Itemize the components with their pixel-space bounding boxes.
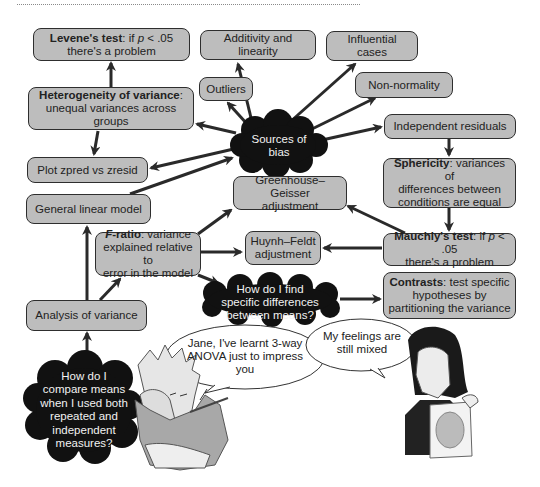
compare-means-text: How do I compare means when I used both … (36, 368, 132, 452)
specific-differences-text: How do I find specific differences betwe… (205, 282, 335, 322)
speech-right-line1: My feelings are (323, 330, 401, 342)
specific-line1: How do I find (236, 283, 303, 295)
arrow-bias-to-plot-zpred (151, 148, 238, 168)
speech-left-line1: Jane, I've learnt 3-way (188, 337, 303, 349)
plot-zpred-label: Plot zpred vs zresid (37, 164, 137, 177)
f-ratio-line3: error in the model (103, 267, 193, 279)
f-ratio-box: F-ratio: variance explained relative to … (95, 232, 201, 276)
greenhouse-geisser-box: Greenhouse–Geisser adjustment (233, 176, 347, 210)
compare-line5: independent (52, 424, 115, 436)
sources-line1: Sources of (252, 133, 307, 145)
independent-residuals-label: Independent residuals (393, 120, 506, 133)
arrow-bias-to-heterogeneity (197, 124, 236, 133)
sources-line2: bias (268, 146, 289, 158)
heterogeneity-box: Heterogeneity of variance: unequal varia… (28, 87, 194, 130)
speech-left-line3: you (236, 363, 255, 375)
analysis-of-variance-box: Analysis of variance (26, 300, 147, 331)
levene-title: Levene's test (50, 32, 122, 44)
f-ratio-line2: explained relative to (103, 241, 193, 266)
arrow-anova-to-f-ratio (100, 279, 120, 300)
contrasts-line3: partitioning the variance (388, 302, 510, 314)
sources-of-bias-text: Sources of bias (236, 128, 322, 164)
specific-line2: specific differences (221, 296, 319, 308)
heterogeneity-colon: : (180, 89, 183, 101)
compare-line6: measures? (56, 437, 113, 449)
heterogeneity-line2: unequal variances across groups (46, 102, 176, 127)
speech-right-line2: still mixed (337, 343, 387, 355)
outliers-label: Outliers (206, 83, 246, 96)
sphericity-line2: differences between (398, 183, 501, 195)
contrasts-box: Contrasts: test specific hypotheses by p… (383, 272, 516, 319)
greenhouse-line1: Greenhouse–Geisser (255, 174, 325, 199)
compare-line1: How do I (61, 370, 106, 382)
outliers-box: Outliers (199, 77, 253, 101)
specific-line3: between means? (226, 309, 314, 321)
mauchly-test-box: Mauchly's test: if p < .05 there's a pro… (383, 233, 516, 266)
contrasts-line2: hypotheses by (412, 289, 486, 301)
influential-cases-box: Influential cases (326, 31, 418, 61)
sphericity-line3: conditions are equal (398, 196, 501, 208)
female-character-illustration (405, 327, 478, 458)
independent-residuals-box: Independent residuals (384, 114, 516, 139)
arrow-f-ratio-to-greenhouse (198, 210, 231, 234)
additivity-label: Additivity and linearity (205, 32, 311, 58)
arrow-heterogeneity-to-plot-zpred (94, 131, 98, 154)
contrasts-title: Contrasts (389, 276, 443, 288)
speech-left-text: Jane, I've learnt 3-way ANOVA just to im… (172, 334, 318, 378)
huynh-line2: adjustment (255, 248, 311, 260)
compare-line2: compare means (43, 383, 125, 395)
mauchly-title: Mauchly's test (394, 230, 473, 242)
sphericity-text: : variances of (445, 157, 505, 182)
sphericity-box: Sphericity: variances of differences bet… (383, 158, 516, 208)
general-linear-model-box: General linear model (26, 194, 151, 224)
levene-text: : if (122, 32, 137, 44)
non-normality-box: Non-normality (355, 72, 453, 98)
levene-line2: there's a problem (67, 45, 156, 57)
f-ratio-title: -ratio (112, 228, 141, 240)
plot-zpred-box: Plot zpred vs zresid (27, 157, 148, 183)
huynh-feldt-box: Huynh–Feldt adjustment (245, 231, 321, 265)
sphericity-title: Sphericity (394, 157, 450, 169)
non-normality-label: Non-normality (368, 79, 440, 92)
contrasts-text: : test specific (443, 276, 509, 288)
huynh-line1: Huynh–Feldt (250, 235, 315, 247)
arrow-bias-to-independent-residuals (322, 127, 381, 140)
glm-label: General linear model (35, 203, 142, 216)
heterogeneity-title: Heterogeneity of variance (39, 89, 180, 101)
additivity-linearity-box: Additivity and linearity (200, 30, 316, 60)
arrow-bias-to-non-normality (310, 98, 375, 130)
mauchly-line2: there's a problem (405, 256, 494, 268)
levene-test-box: Levene's test: if p < .05 there's a prob… (33, 28, 190, 61)
greenhouse-line2: adjustment (262, 200, 318, 212)
influential-label: Influential cases (331, 33, 413, 59)
mauchly-text: : if (473, 230, 488, 242)
speech-left-line2: ANOVA just to impress (187, 350, 303, 362)
compare-line4: repeated and (50, 410, 118, 422)
f-ratio-text: : variance (141, 228, 191, 240)
levene-threshold: < .05 (144, 32, 173, 44)
speech-right-text: My feelings are still mixed (310, 328, 414, 358)
compare-line3: when I used both (40, 397, 128, 409)
arrow-mauchly-to-greenhouse (348, 206, 405, 233)
anova-label: Analysis of variance (35, 309, 137, 322)
